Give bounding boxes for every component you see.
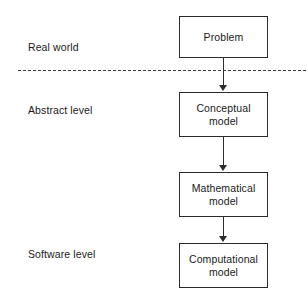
- node-mathematical-model[interactable]: Mathematical model: [179, 172, 268, 217]
- edge-problem-to-conceptual: [223, 58, 224, 86]
- real-world-abstract-divider: [18, 70, 306, 71]
- node-problem[interactable]: Problem: [179, 16, 268, 58]
- arrowhead-conceptual-to-mathematical: [219, 165, 227, 171]
- node-conceptual-model[interactable]: Conceptual model: [179, 92, 268, 137]
- node-mathematical-model-label-line1: Mathematical: [192, 182, 256, 194]
- node-conceptual-model-label-line1: Conceptual: [196, 102, 250, 114]
- level-label-real-world: Real world: [28, 41, 79, 53]
- scan-artifact-strip: [150, 0, 308, 6]
- edge-conceptual-to-mathematical: [223, 137, 224, 166]
- node-conceptual-model-label-line2: model: [209, 115, 238, 127]
- level-label-abstract-level: Abstract level: [28, 104, 92, 116]
- node-mathematical-model-label-line2: model: [209, 195, 238, 207]
- arrowhead-mathematical-to-computational: [219, 236, 227, 242]
- arrowhead-problem-to-conceptual: [219, 85, 227, 91]
- node-computational-model-label-line2: model: [209, 266, 238, 278]
- node-computational-model-label-line1: Computational: [189, 253, 258, 265]
- level-label-software-level: Software level: [28, 248, 95, 260]
- node-computational-model-label: Computational model: [185, 253, 262, 278]
- edge-mathematical-to-computational: [223, 217, 224, 237]
- node-problem-label: Problem: [200, 31, 248, 44]
- diagram-canvas: Real world Abstract level Software level…: [0, 0, 308, 305]
- node-computational-model[interactable]: Computational model: [179, 243, 268, 288]
- node-mathematical-model-label: Mathematical model: [188, 182, 260, 207]
- node-conceptual-model-label: Conceptual model: [192, 102, 254, 127]
